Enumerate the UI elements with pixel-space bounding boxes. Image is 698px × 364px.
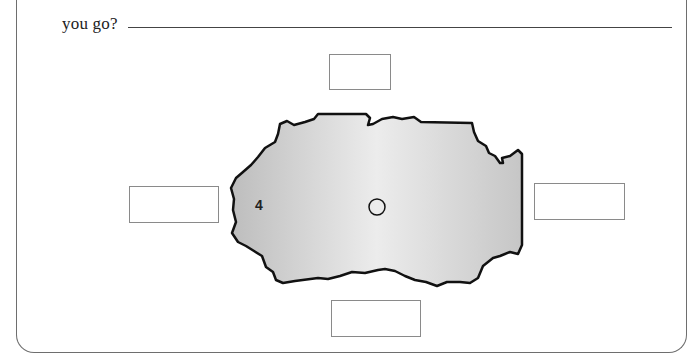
- north-answer-input[interactable]: [330, 55, 394, 91]
- region-outline: [231, 114, 522, 286]
- west-answer-input[interactable]: [130, 187, 222, 224]
- east-answer-box[interactable]: [534, 183, 625, 220]
- south-answer-input[interactable]: [332, 301, 424, 338]
- west-answer-box[interactable]: [129, 186, 219, 223]
- south-answer-box[interactable]: [331, 300, 421, 337]
- region-label: 4: [255, 197, 263, 213]
- north-answer-box[interactable]: [329, 54, 391, 90]
- east-answer-input[interactable]: [535, 184, 628, 221]
